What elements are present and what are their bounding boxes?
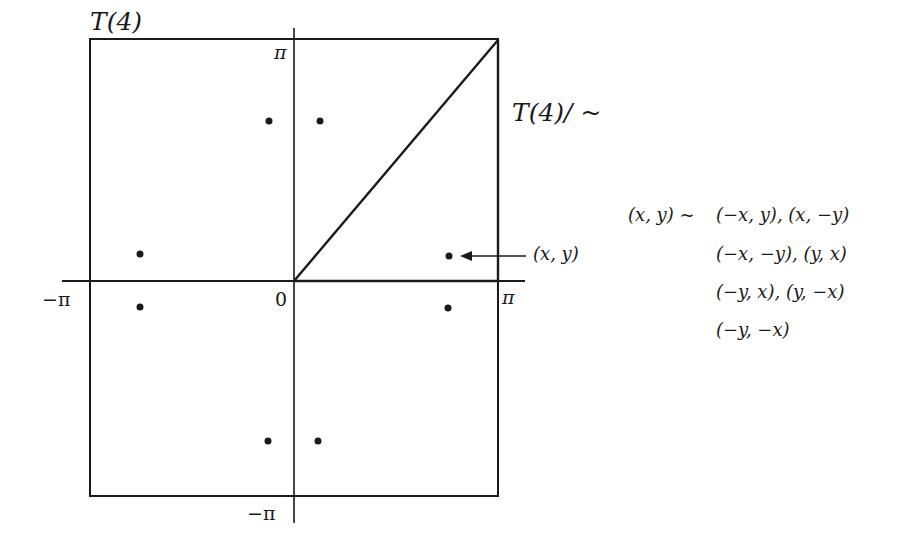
- orbit-point: [137, 251, 144, 258]
- torus-label: T(4): [90, 9, 142, 34]
- orbit-point: [445, 305, 452, 312]
- orbit-point: [315, 438, 322, 445]
- arrow-head-icon: [460, 251, 472, 261]
- neg-pi-left-label: −π: [42, 290, 70, 309]
- pi-right-label: π: [502, 288, 515, 307]
- pi-top-label: π: [274, 43, 287, 62]
- relation-line-4: (−y, −x): [716, 321, 790, 339]
- origin-label: 0: [275, 290, 287, 309]
- relation-line-2: (−x, −y), (y, x): [716, 245, 847, 263]
- orbit-point: [446, 253, 453, 260]
- orbit-point: [266, 118, 273, 125]
- relation-lhs: (x, y) ~: [628, 206, 695, 224]
- fundamental-domain-diagonal: [294, 40, 498, 281]
- relation-line-1: (−x, y), (x, −y): [716, 206, 849, 224]
- neg-pi-bottom-label: −π: [247, 504, 275, 523]
- torus-quotient-diagram: T(4) π T(4)/ ~ −π 0 π −π (x, y) (x, y) ~…: [0, 0, 910, 548]
- diagram-canvas: [0, 0, 910, 548]
- orbit-point: [265, 438, 272, 445]
- quotient-label: T(4)/ ~: [512, 100, 601, 125]
- orbit-point: [317, 118, 324, 125]
- point-label: (x, y): [533, 245, 579, 263]
- orbit-point: [137, 304, 144, 311]
- relation-line-3: (−y, x), (y, −x): [716, 283, 844, 301]
